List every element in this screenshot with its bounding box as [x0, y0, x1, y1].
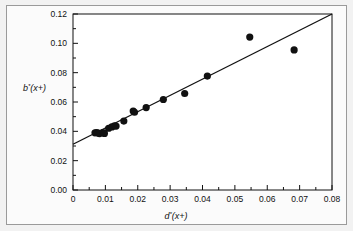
data-point [120, 117, 127, 124]
x-axis-tick-labels: 00.010.020.030.040.050.060.070.08 [71, 194, 341, 204]
x-tick-label: 0.01 [97, 194, 114, 204]
x-tick-label: 0.03 [162, 194, 179, 204]
y-tick-label: 0.12 [50, 9, 67, 19]
plot-frame [73, 14, 332, 190]
y-tick-label: 0.04 [50, 126, 67, 136]
data-point [143, 104, 150, 111]
y-tick-label: 0.00 [50, 185, 67, 195]
y-tick-label: 0.08 [50, 68, 67, 78]
data-point [246, 33, 253, 40]
x-tick-label: 0.05 [227, 194, 244, 204]
y-tick-label: 0.10 [50, 38, 67, 48]
y-axis-title-arg: (x+) [30, 83, 46, 93]
data-point [204, 72, 211, 79]
data-point [131, 109, 138, 116]
data-point [112, 122, 119, 129]
x-tick-label: 0.06 [259, 194, 276, 204]
x-tick-label: 0.08 [324, 194, 341, 204]
figure-container: 0.000.020.040.060.080.100.12 00.010.020.… [0, 0, 353, 231]
x-axis-title: d*(x+) [164, 211, 187, 221]
y-tick-label: 0.06 [50, 97, 67, 107]
y-axis-title: b*(x+) [23, 83, 46, 93]
y-tick-label: 0.02 [50, 156, 67, 166]
scatter-plot: 0.000.020.040.060.080.100.12 00.010.020.… [0, 0, 353, 231]
x-axis-title-arg: (x+) [172, 211, 188, 221]
data-point [160, 96, 167, 103]
x-tick-label: 0.04 [194, 194, 211, 204]
x-tick-label: 0.02 [129, 194, 146, 204]
y-axis-tick-labels: 0.000.020.040.060.080.100.12 [50, 9, 67, 195]
data-point [181, 90, 188, 97]
x-tick-label: 0 [71, 194, 76, 204]
x-tick-label: 0.07 [291, 194, 308, 204]
data-point [291, 46, 298, 53]
